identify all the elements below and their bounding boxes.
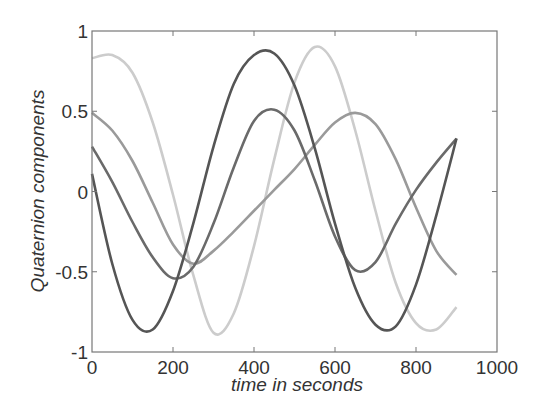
x-tick-label: 200 — [157, 357, 189, 378]
y-tick-label: 1 — [77, 21, 88, 42]
x-axis-label: time in seconds — [231, 374, 364, 395]
y-tick-label: -0.5 — [55, 262, 88, 283]
quaternion-line-chart: 02004006008001000 -1-0.500.51 time in se… — [0, 0, 545, 414]
x-tick-label: 1000 — [476, 357, 518, 378]
x-tick-label: 800 — [400, 357, 432, 378]
y-tick-label: 0 — [77, 182, 88, 203]
y-tick-label: 0.5 — [62, 101, 88, 122]
series-line-q2 — [92, 109, 457, 278]
series-line-q3 — [92, 113, 457, 275]
y-axis-label: Quaternion components — [27, 89, 48, 292]
y-tick-label: -1 — [71, 342, 88, 363]
x-tick-label: 0 — [87, 357, 98, 378]
series-layer — [92, 47, 457, 335]
y-axis: -1-0.500.51 — [55, 21, 497, 363]
x-axis: 02004006008001000 — [87, 31, 518, 378]
